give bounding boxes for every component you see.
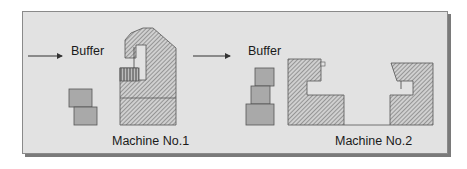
machine-2-unit: [288, 59, 433, 125]
buffer-1-stack: [69, 89, 97, 125]
machine-2-label: Machine No.2: [335, 134, 412, 148]
buffer-2-label: Buffer: [248, 44, 281, 58]
buffer-1-label: Buffer: [71, 44, 104, 58]
machine-1-press: [120, 28, 176, 125]
machine-1-label: Machine No.1: [112, 134, 189, 148]
buffer-2-stack: [246, 68, 274, 125]
